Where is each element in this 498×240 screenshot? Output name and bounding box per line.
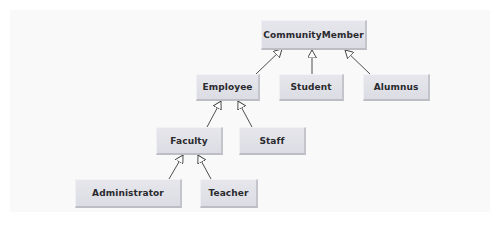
class-staff: Staff: [239, 127, 306, 155]
edge-faculty-to-employee: [207, 101, 221, 127]
edge-teacher-to-faculty: [198, 155, 211, 179]
class-alumnus: Alumnus: [363, 74, 430, 101]
class-teacher: Teacher: [200, 179, 258, 208]
class-student: Student: [279, 74, 344, 101]
class-employee: Employee: [196, 74, 260, 101]
edge-employee-to-communitymember: [256, 49, 282, 74]
class-administrator: Administrator: [75, 179, 182, 208]
class-communitymember: CommunityMember: [261, 20, 367, 50]
edge-administrator-to-faculty: [169, 155, 183, 179]
class-faculty: Faculty: [156, 127, 223, 155]
edge-alumnus-to-communitymember: [345, 50, 370, 74]
edge-staff-to-employee: [238, 101, 252, 127]
